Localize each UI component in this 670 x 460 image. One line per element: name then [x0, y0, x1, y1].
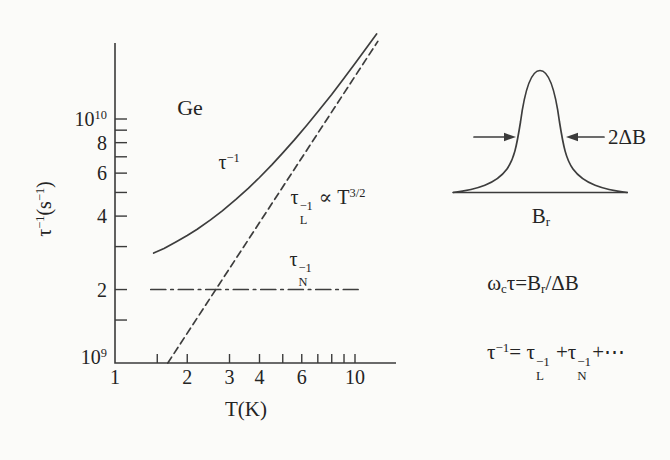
- tau-N-curve-label: τ−1N: [289, 249, 312, 289]
- resonance-peak-inset: [453, 71, 628, 193]
- equation-rate-sum: τ−1= τ−1L +τ−1N+⋯: [487, 341, 625, 383]
- y-tick-label: 4: [97, 206, 107, 226]
- y-tick-label: 109: [81, 347, 107, 367]
- x-axis-title: T(K): [225, 399, 267, 420]
- y-axis-title: τ−1(s−1): [34, 181, 54, 237]
- x-tick-label: 1: [110, 367, 120, 387]
- y-tick-label: 6: [97, 163, 107, 183]
- x-tick-label: 10: [345, 367, 365, 387]
- x-tick-label: 3: [225, 367, 235, 387]
- right-arrowhead-icon: [566, 133, 578, 141]
- figure: Ge τ−1 τ−1L ∝ T3/2 τ−1N T(K) τ−1(s−1) 12…: [0, 0, 670, 460]
- resonance-field-label: Br: [532, 206, 550, 229]
- y-tick-label: 8: [97, 133, 107, 153]
- x-tick-label: 2: [182, 367, 192, 387]
- y-tick-label: 2: [97, 280, 107, 300]
- y-tick-label: 1010: [75, 109, 107, 129]
- left-arrowhead-icon: [504, 133, 516, 141]
- tau-inverse-curve-label: τ−1: [218, 152, 239, 172]
- plot-canvas: [0, 0, 670, 460]
- x-tick-label: 4: [254, 367, 264, 387]
- material-label: Ge: [177, 97, 203, 119]
- tau-L-curve-label: τ−1L ∝ T3/2: [291, 187, 366, 227]
- equation-omega-c-tau: ωcτ=Br/ΔB: [487, 273, 579, 296]
- x-tick-label: 6: [297, 367, 307, 387]
- linewidth-label: 2ΔB: [608, 127, 646, 148]
- peak-curve: [453, 71, 627, 193]
